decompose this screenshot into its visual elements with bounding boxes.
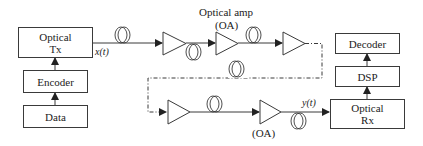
- bottom-amp-abbrev: (OA): [252, 127, 275, 139]
- optical-tx-line1: Optical: [39, 31, 71, 43]
- input-signal-label: x(t): [95, 46, 109, 57]
- encoder-label: Encoder: [37, 76, 74, 88]
- dsp-block: DSP: [335, 66, 400, 87]
- optical-rx-line1: Optical: [351, 102, 383, 114]
- optical-tx-line2: Tx: [49, 43, 61, 55]
- amplifier-icon: [216, 32, 238, 55]
- optical-rx-block: Optical Rx: [330, 99, 405, 129]
- fiber-spool-icon: [186, 44, 201, 60]
- fiber-spool-icon: [291, 113, 306, 129]
- amplifier-icon: [168, 100, 190, 124]
- amplifier-icon: [283, 32, 305, 55]
- optical-amp-abbrev: (OA): [215, 19, 238, 31]
- data-block: Data: [23, 105, 88, 128]
- dsp-label: DSP: [357, 71, 377, 83]
- optical-rx-line2: Rx: [361, 114, 374, 126]
- optical-tx-block: Optical Tx: [18, 27, 93, 58]
- encoder-block: Encoder: [23, 70, 88, 93]
- fiber-spool-icon: [228, 60, 248, 78]
- fiber-spool-icon: [207, 96, 222, 112]
- amplifier-icon: [260, 100, 281, 124]
- decoder-block: Decoder: [335, 33, 400, 54]
- amplifier-icon: [163, 32, 186, 55]
- output-signal-label: y(t): [302, 97, 316, 108]
- fiber-spool-icon: [115, 27, 130, 43]
- data-label: Data: [45, 111, 66, 123]
- optical-amp-label: Optical amp: [199, 6, 253, 18]
- decoder-label: Decoder: [349, 38, 386, 50]
- fiber-spool-icon: [246, 27, 261, 43]
